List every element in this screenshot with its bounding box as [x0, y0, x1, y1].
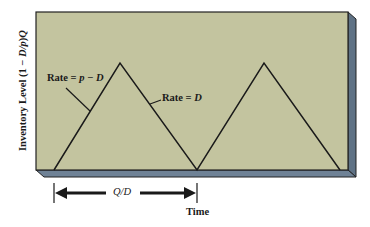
inventory-diagram	[0, 0, 370, 227]
y-axis-label: Inventory Level (1 − D/p)Q	[17, 31, 28, 152]
cycle-arrow-right-head	[184, 187, 196, 199]
panel-face	[36, 12, 348, 170]
x-axis-label: Time	[186, 206, 209, 217]
panel-right-bevel	[348, 12, 356, 177]
cycle-arrow-left-head	[55, 187, 67, 199]
cycle-length-label: Q/D	[113, 186, 131, 197]
demand-rate-label: Rate = D	[162, 92, 202, 103]
production-rate-label: Rate = p − D	[47, 72, 104, 83]
panel-bottom-bevel	[36, 170, 356, 177]
